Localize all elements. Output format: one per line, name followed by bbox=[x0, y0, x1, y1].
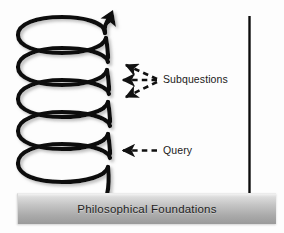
spiral-tail bbox=[107, 167, 109, 195]
subquestions-label: Subquestions bbox=[163, 74, 228, 85]
spiral-link-4 bbox=[108, 134, 110, 154]
spiral-link-2 bbox=[107, 70, 109, 90]
foundation-label: Philosophical Foundations bbox=[77, 203, 216, 215]
figure-canvas: Subquestions Query Philosophical Foundat… bbox=[0, 0, 284, 233]
subquestions-arrow-group bbox=[123, 65, 157, 97]
subquestions-arrow-bottom bbox=[126, 82, 157, 97]
ascending-spiral bbox=[18, 10, 116, 195]
spiral-link-1 bbox=[106, 38, 108, 58]
query-label: Query bbox=[163, 145, 192, 156]
spiral-link-3 bbox=[108, 102, 110, 122]
subquestions-arrow-top bbox=[126, 65, 157, 79]
philosophical-foundations-bar: Philosophical Foundations bbox=[17, 193, 276, 224]
